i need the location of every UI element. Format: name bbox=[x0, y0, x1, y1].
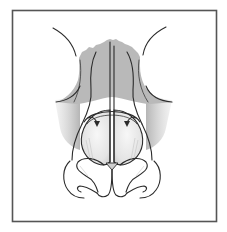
nasal-cartilage-diagram bbox=[0, 0, 227, 232]
